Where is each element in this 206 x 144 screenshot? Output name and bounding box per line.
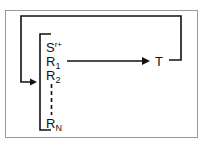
rn-sub: N xyxy=(55,123,62,133)
feedback-diagram: Sr+ R1 R2 RN T xyxy=(0,0,206,144)
rn-base: R xyxy=(46,116,55,131)
label-r2: R2 xyxy=(46,69,60,87)
r2-sub: 2 xyxy=(55,75,60,85)
feedback-loop-line xyxy=(21,16,181,82)
label-target-t: T xyxy=(155,55,163,68)
s-base: S xyxy=(46,40,55,55)
r2-base: R xyxy=(46,68,55,83)
label-rn: RN xyxy=(46,117,62,135)
outer-frame xyxy=(6,11,198,138)
s-sup: r+ xyxy=(55,40,62,49)
diagram-lines xyxy=(0,0,206,144)
r1-to-t-arrowhead-icon xyxy=(142,57,150,65)
r1-base: R xyxy=(46,54,55,69)
feedback-arrowhead-icon xyxy=(30,79,37,86)
label-s-r-plus: Sr+ xyxy=(46,38,62,54)
